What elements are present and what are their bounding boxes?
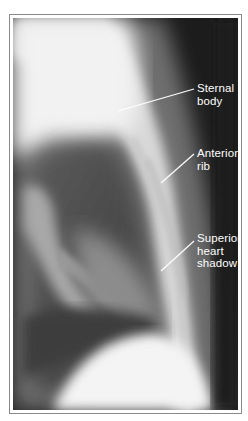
radiograph-image: Sternal body Anterior rib Superior heart…: [13, 18, 238, 410]
label-line: heart: [197, 245, 238, 258]
label-line: body: [197, 95, 234, 108]
label-line: Anterior: [197, 147, 238, 160]
label-sternal-body: Sternal body: [197, 82, 234, 107]
label-line: rib: [197, 160, 238, 173]
figure-frame: Sternal body Anterior rib Superior heart…: [9, 14, 242, 414]
label-line: shadow: [197, 257, 238, 270]
label-superior-heart-shadow: Superior heart shadow: [197, 232, 238, 270]
label-line: Superior: [197, 232, 238, 245]
radiograph-graphic: [13, 18, 238, 410]
label-anterior-rib: Anterior rib: [197, 147, 238, 172]
label-line: Sternal: [197, 82, 234, 95]
